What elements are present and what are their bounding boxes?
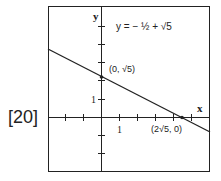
x-tick-label: 1 [117, 124, 122, 135]
y-tick-label: 1 [91, 94, 96, 105]
point-label-y-intercept: (0, √5) [109, 64, 135, 74]
graph: y x y = − ½ + √5 (0, √5) (2√5, 0) 1 1 [0, 0, 221, 181]
equation-label: y = − ½ + √5 [116, 21, 172, 32]
point-y-intercept [100, 75, 104, 79]
point-x-intercept [180, 116, 184, 120]
x-axis-label: x [197, 102, 203, 114]
y-axis-label: y [93, 10, 99, 22]
point-label-x-intercept: (2√5, 0) [151, 124, 182, 134]
line-series [48, 49, 210, 132]
